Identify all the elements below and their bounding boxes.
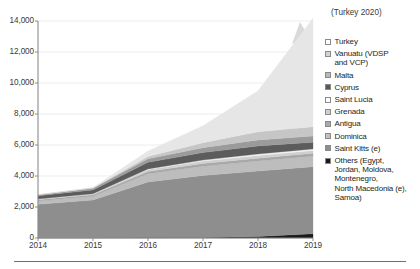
- legend-item[interactable]: Saint Kitts (e): [325, 144, 420, 153]
- legend-item-label: Grenada: [335, 107, 365, 116]
- x-axis-tick-label: 2017: [185, 241, 221, 250]
- legend-item-label: Cyprus: [335, 83, 359, 92]
- legend-item[interactable]: Malta: [325, 71, 420, 80]
- legend-swatch-icon: [325, 109, 331, 115]
- x-axis-tick-label: 2014: [20, 241, 56, 250]
- legend-item-label: Saint Kitts (e): [335, 144, 381, 153]
- legend-item[interactable]: Vanuatu (VDSP and VCP): [325, 49, 420, 67]
- legend-swatch-icon: [325, 84, 331, 90]
- legend-item-label: Others (Egypt, Jordan, Moldova, Monteneg…: [335, 156, 407, 202]
- legend-swatch-icon: [325, 39, 331, 45]
- turkey-2020-annotation: (Turkey 2020): [331, 8, 382, 17]
- x-axis-tick-label: 2018: [240, 241, 276, 250]
- legend-swatch-icon: [325, 72, 331, 78]
- y-axis-tick-label: 10,000: [0, 78, 34, 87]
- legend-swatch-icon: [325, 158, 331, 164]
- legend-swatch-icon: [325, 51, 331, 57]
- y-axis-tick-label: 4,000: [0, 171, 34, 180]
- x-axis-tick-label: 2015: [75, 241, 111, 250]
- legend-item-label: Vanuatu (VDSP and VCP): [335, 49, 389, 67]
- x-axis-tick-label: 2019: [295, 241, 331, 250]
- legend-item-label: Turkey: [335, 37, 358, 46]
- area-bands: [38, 18, 313, 238]
- x-axis-tick-label: 2016: [130, 241, 166, 250]
- bottom-divider-rule: [14, 261, 406, 262]
- y-axis-tick-label: 14,000: [0, 16, 34, 25]
- legend-item[interactable]: Grenada: [325, 107, 420, 116]
- legend: TurkeyVanuatu (VDSP and VCP)MaltaCyprusS…: [325, 37, 420, 205]
- plot-area: [0, 0, 320, 255]
- legend-item[interactable]: Turkey: [325, 37, 420, 46]
- y-axis-tick-label: 8,000: [0, 109, 34, 118]
- legend-swatch-icon: [325, 133, 331, 139]
- legend-item-label: Dominica: [335, 132, 367, 141]
- y-axis-tick-label: 2,000: [0, 202, 34, 211]
- legend-item-label: Saint Lucia: [335, 95, 373, 104]
- y-axis-tick-label: 12,000: [0, 47, 34, 56]
- legend-item-label: Malta: [335, 71, 354, 80]
- y-axis-tick-label: 6,000: [0, 140, 34, 149]
- legend-swatch-icon: [325, 97, 331, 103]
- chart-figure: 02,0004,0006,0008,00010,00012,00014,000 …: [0, 0, 420, 269]
- legend-item[interactable]: Dominica: [325, 132, 420, 141]
- legend-swatch-icon: [325, 121, 331, 127]
- legend-item[interactable]: Cyprus: [325, 83, 420, 92]
- legend-item[interactable]: Saint Lucia: [325, 95, 420, 104]
- legend-swatch-icon: [325, 145, 331, 151]
- legend-item[interactable]: Others (Egypt, Jordan, Moldova, Monteneg…: [325, 156, 420, 202]
- legend-item[interactable]: Antigua: [325, 119, 420, 128]
- stacked-area-svg: [0, 0, 320, 255]
- legend-item-label: Antigua: [335, 119, 361, 128]
